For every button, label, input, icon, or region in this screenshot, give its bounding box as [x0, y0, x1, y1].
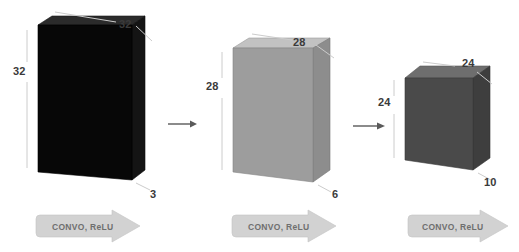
diagram-canvas: 32 32 3 28 28 6 24 24 10 CONVO, ReLU CON…	[0, 0, 519, 252]
conv2-volume-block	[405, 66, 490, 170]
input-volume-height-label: 32	[13, 65, 26, 77]
operation-banner-1-label: CONVO, ReLU	[52, 222, 113, 232]
conv2-volume-front-face	[405, 78, 473, 170]
input-volume-block	[38, 16, 145, 180]
input-volume-front-face	[38, 25, 132, 180]
conv1-volume-front-face	[233, 48, 313, 182]
flow-arrow-1	[168, 121, 197, 128]
input-depth-leader	[136, 183, 150, 190]
conv2-volume-side-face	[473, 66, 490, 170]
input-volume-side-face	[132, 16, 145, 180]
conv2-width-leader-left	[423, 62, 455, 66]
operation-banner-3-label: CONVO, ReLU	[422, 222, 483, 232]
conv2-volume-height-label: 24	[378, 96, 391, 108]
flow-arrow-2	[353, 123, 385, 130]
conv1-volume-width-label: 28	[293, 36, 306, 48]
diagram-vector-layer	[0, 0, 519, 252]
operation-banner-2-label: CONVO, ReLU	[248, 222, 309, 232]
conv1-volume-block	[233, 38, 330, 182]
conv2-volume-width-label: 24	[462, 57, 475, 69]
conv1-volume-side-face	[313, 38, 330, 182]
conv1-volume-height-label: 28	[206, 80, 219, 92]
flow-arrow-1-head	[190, 121, 197, 128]
conv1-depth-leader	[318, 185, 331, 192]
input-volume-width-label: 32	[119, 18, 132, 30]
flow-arrow-2-head	[377, 123, 385, 130]
conv2-volume-depth-label: 10	[484, 176, 497, 188]
conv1-volume-depth-label: 6	[332, 188, 338, 200]
input-volume-depth-label: 3	[150, 188, 156, 200]
